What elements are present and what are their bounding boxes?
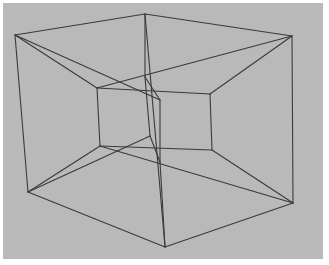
edge-outer_top_back-to-outer_bottom_front — [145, 14, 165, 247]
edge-outer_top_left-to-outer_bottom_left — [15, 35, 28, 192]
edge-outer_bottom_left-to-inner_bottom_left — [28, 146, 100, 192]
edge-outer_bottom_left-to-inner_bottom_back — [28, 136, 150, 192]
edge-outer_bottom_left-to-outer_bottom_front — [28, 192, 165, 247]
edge-outer_top_left-to-outer_top_back — [15, 14, 145, 35]
edge-inner_top_left-to-inner_bottom_left — [97, 88, 100, 146]
edge-outer_top_right-to-inner_top_left — [97, 36, 292, 88]
edge-inner_top_right-to-inner_bottom_right — [210, 94, 212, 150]
edge-outer_bottom_front-to-outer_bottom_right — [165, 203, 293, 247]
figure-frame: Wireframe projection of a hypercube (tes… — [0, 0, 329, 265]
edge-outer_top_right-to-inner_top_right — [210, 36, 292, 94]
edge-inner_bottom_front-to-outer_bottom_front — [160, 162, 165, 247]
edge-outer_bottom_right-to-inner_bottom_left — [100, 146, 293, 203]
edge-outer_bottom_right-to-inner_bottom_right — [212, 150, 293, 203]
tesseract-wireframe — [0, 0, 329, 265]
edge-outer_top_back-to-outer_top_right — [145, 14, 292, 36]
edge-outer_top_right-to-outer_bottom_right — [292, 36, 293, 203]
edge-inner_top_back-to-inner_bottom_back — [145, 77, 150, 136]
edge-outer_top_left-to-inner_top_left — [15, 35, 97, 88]
edge-inner_bottom_back-to-inner_bottom_front — [150, 136, 160, 162]
